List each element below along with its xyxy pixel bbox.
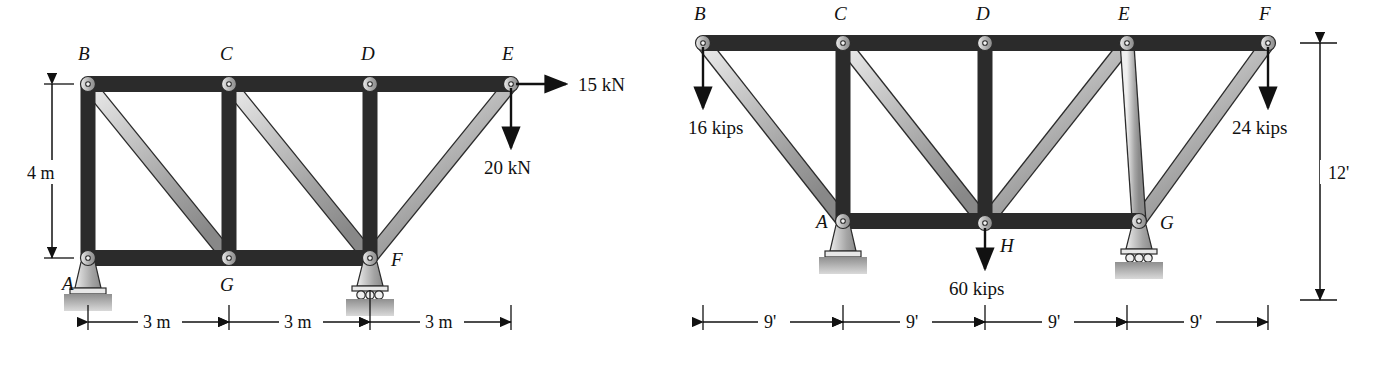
- dim-label-9ft-1: 9': [764, 312, 776, 332]
- dim-label-3m-2: 3 m: [284, 312, 312, 332]
- node-label-B: B: [78, 43, 90, 64]
- dim-label-3m-3: 3 m: [425, 312, 453, 332]
- dim-label-4m: 4 m: [27, 163, 55, 183]
- joint-G-right: [1132, 214, 1147, 229]
- node-label-H-right: H: [999, 235, 1015, 256]
- node-label-G: G: [220, 274, 234, 295]
- joint-C: [222, 77, 237, 92]
- dim-label-9ft-3: 9': [1048, 312, 1060, 332]
- node-label-F-right: F: [1258, 3, 1271, 24]
- truss-figure-canvas: B C D E A F G 15 kN 20 kN 4 m: [0, 0, 1377, 379]
- node-label-A-right: A: [814, 211, 828, 232]
- dim-label-3m-1: 3 m: [143, 312, 171, 332]
- joint-A: [81, 251, 96, 266]
- joint-G: [222, 251, 237, 266]
- load-label-15kn: 15 kN: [578, 74, 625, 95]
- node-label-E: E: [501, 43, 514, 64]
- joint-D-right: [978, 36, 993, 51]
- node-label-B-right: B: [694, 3, 706, 24]
- node-label-D-right: D: [975, 3, 990, 24]
- load-label-24kips: 24 kips: [1232, 117, 1287, 138]
- dim-label-9ft-4: 9': [1190, 312, 1202, 332]
- joint-A-right: [836, 214, 851, 229]
- node-label-E-right: E: [1117, 3, 1130, 24]
- node-label-C-right: C: [834, 3, 847, 24]
- joint-F: [363, 251, 378, 266]
- load-label-20kn: 20 kN: [484, 157, 531, 178]
- joint-B: [81, 77, 96, 92]
- node-label-A: A: [60, 273, 74, 294]
- node-label-D: D: [360, 43, 375, 64]
- dim-label-12ft: 12': [1328, 163, 1349, 183]
- node-label-F: F: [390, 249, 403, 270]
- joint-E-right: [1120, 36, 1135, 51]
- joint-C-right: [836, 36, 851, 51]
- load-label-16kips: 16 kips: [688, 117, 743, 138]
- truss-figure-svg: B C D E A F G 15 kN 20 kN 4 m: [0, 0, 1377, 379]
- node-label-G-right: G: [1160, 212, 1174, 233]
- load-label-60kips: 60 kips: [949, 278, 1004, 299]
- node-label-C: C: [220, 43, 233, 64]
- dim-label-9ft-2: 9': [906, 312, 918, 332]
- joint-D: [363, 77, 378, 92]
